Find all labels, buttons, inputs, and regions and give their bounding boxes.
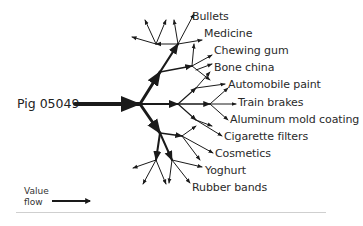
product-label: Aluminum mold coating <box>230 114 359 126</box>
product-label: Chewing gum <box>214 45 289 57</box>
tree-branch <box>210 104 228 120</box>
tree-branch <box>182 136 213 153</box>
tree-branch <box>160 133 182 136</box>
tree-branch <box>192 55 212 66</box>
tree-branch <box>196 120 222 136</box>
tree-branch <box>210 88 228 104</box>
value-flow-legend: Value flow <box>24 186 49 208</box>
tree-branch <box>156 20 166 44</box>
tree-branch <box>196 84 225 88</box>
tree-branch <box>169 160 172 183</box>
tree-branch <box>145 20 156 44</box>
product-label: Cosmetics <box>215 148 271 160</box>
product-label: Bullets <box>192 11 229 23</box>
product-label: Automobile paint <box>228 79 321 91</box>
tree-branch <box>178 40 202 44</box>
tree-branch <box>192 44 194 66</box>
tree-branch <box>156 160 166 184</box>
tree-branch <box>132 37 156 44</box>
legend-line-2: flow <box>24 197 49 208</box>
tree-branch <box>174 20 178 44</box>
tree-branch <box>160 133 172 160</box>
tree-branch <box>160 44 178 72</box>
product-label: Rubber bands <box>192 182 267 194</box>
product-label: Bone china <box>214 62 274 74</box>
legend-line-1: Value <box>24 186 49 197</box>
product-label: Train brakes <box>238 97 303 109</box>
tree-branch <box>156 133 160 160</box>
tree-branch <box>178 88 196 104</box>
tree-branch <box>140 104 160 133</box>
tree-branch <box>182 136 200 160</box>
tree-branch <box>160 66 192 72</box>
product-label: Yoghurt <box>205 165 246 177</box>
tree-branch <box>140 72 160 104</box>
tree-branch <box>182 126 196 136</box>
product-label: Cigarette filters <box>224 131 308 143</box>
divider <box>16 212 326 213</box>
tree-branch <box>178 104 196 120</box>
tree-branch <box>196 64 212 70</box>
product-label: Medicine <box>204 28 252 40</box>
